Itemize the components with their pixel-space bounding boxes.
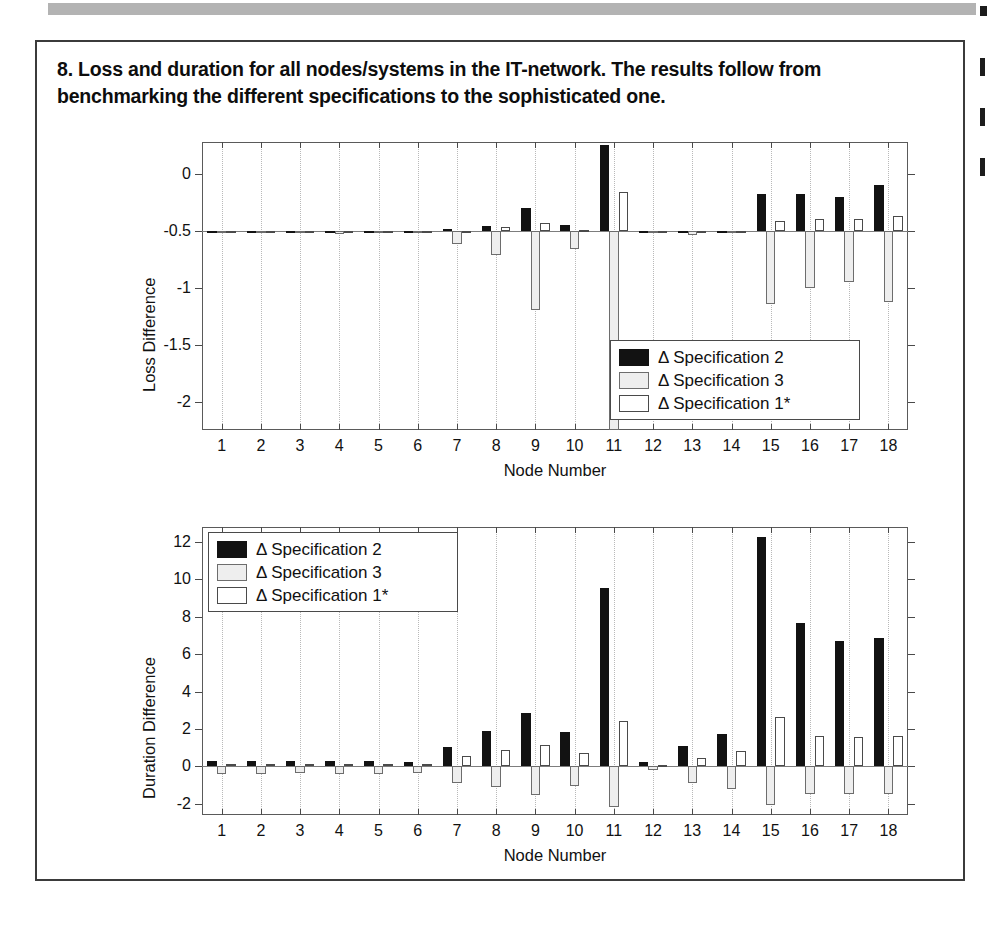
bar xyxy=(383,231,392,233)
y-axis-tick-right xyxy=(908,345,915,346)
bar xyxy=(600,145,609,230)
x-axis-tick xyxy=(222,424,223,430)
bar xyxy=(835,197,844,231)
legend-swatch-s1 xyxy=(619,395,649,412)
x-axis-tick xyxy=(300,424,301,430)
bar xyxy=(884,766,893,794)
bar xyxy=(796,194,805,230)
x-axis-tick xyxy=(222,809,223,815)
bar xyxy=(452,766,461,783)
figure-panel: 8. Loss and duration for all nodes/syste… xyxy=(35,40,965,881)
gridline-vertical xyxy=(457,142,458,430)
page-edge-text-fragments xyxy=(978,0,1000,190)
x-axis-tick xyxy=(300,809,301,815)
y-axis-tick xyxy=(195,288,202,289)
legend-label: Δ Specification 1* xyxy=(256,587,388,604)
x-axis-tick xyxy=(339,424,340,430)
bar xyxy=(501,227,510,230)
bar xyxy=(413,231,422,233)
bar xyxy=(844,766,853,794)
bar xyxy=(835,641,844,766)
y-axis-tick-right xyxy=(908,729,915,730)
x-axis-tick-label: 11 xyxy=(606,822,623,840)
bar xyxy=(217,231,226,233)
loss-legend: Δ Specification 2Δ Specification 3Δ Spec… xyxy=(610,340,860,420)
bar xyxy=(256,766,265,773)
bar xyxy=(570,231,579,249)
bar xyxy=(521,208,530,231)
x-axis-tick-label: 8 xyxy=(492,437,501,455)
y-axis-tick xyxy=(195,654,202,655)
bar xyxy=(247,231,256,233)
y-axis-tick-label: -1 xyxy=(177,279,191,297)
x-axis-tick xyxy=(379,809,380,815)
x-axis-tick-label: 17 xyxy=(840,822,858,840)
x-axis-tick-top xyxy=(496,142,497,148)
y-axis-tick xyxy=(195,729,202,730)
y-axis-tick-label: 12 xyxy=(173,533,191,551)
y-axis-tick xyxy=(195,692,202,693)
gridline-vertical xyxy=(339,142,340,430)
bar xyxy=(757,194,766,230)
bar xyxy=(815,736,824,766)
y-axis-tick xyxy=(195,231,202,232)
gridline-vertical xyxy=(418,142,419,430)
bar xyxy=(404,762,413,767)
bar xyxy=(247,761,256,767)
bar xyxy=(217,766,226,773)
bar xyxy=(531,231,540,311)
y-axis-tick-label: 0 xyxy=(182,165,191,183)
x-axis-tick-top xyxy=(653,527,654,533)
bar xyxy=(678,746,687,767)
bar xyxy=(295,766,304,773)
bar xyxy=(335,766,344,773)
bar xyxy=(325,231,334,233)
x-axis-tick-label: 10 xyxy=(566,822,584,840)
x-axis-tick xyxy=(261,424,262,430)
page-top-rule xyxy=(48,3,976,15)
bar xyxy=(854,219,863,230)
x-axis-tick-top xyxy=(732,142,733,148)
x-axis-tick-label: 5 xyxy=(374,437,383,455)
bar xyxy=(844,231,853,282)
x-axis-tick-label: 14 xyxy=(723,822,741,840)
bar xyxy=(344,231,353,233)
x-axis-tick-top xyxy=(810,527,811,533)
x-axis-tick-top xyxy=(849,142,850,148)
x-axis-tick-top xyxy=(771,142,772,148)
bar xyxy=(422,764,431,766)
bar xyxy=(413,766,422,773)
bar xyxy=(452,231,461,245)
y-axis-tick-right xyxy=(908,804,915,805)
y-axis-tick-label: 10 xyxy=(173,570,191,588)
bar xyxy=(325,761,334,767)
x-axis-tick xyxy=(457,809,458,815)
x-axis-tick xyxy=(575,424,576,430)
y-axis-tick xyxy=(195,766,202,767)
x-axis-tick xyxy=(496,424,497,430)
x-axis-tick-label: 12 xyxy=(644,822,662,840)
legend-item: Δ Specification 2 xyxy=(619,347,850,367)
bar xyxy=(256,231,265,233)
legend-label: Δ Specification 3 xyxy=(256,564,382,581)
bar xyxy=(286,761,295,766)
x-axis-tick-label: 13 xyxy=(683,822,701,840)
x-axis-tick-label: 8 xyxy=(492,822,501,840)
bar xyxy=(207,761,216,767)
x-axis-tick-label: 11 xyxy=(606,437,623,455)
bar xyxy=(462,756,471,766)
y-axis-tick-right xyxy=(908,174,915,175)
bar xyxy=(658,231,667,233)
y-axis-tick-label: 0 xyxy=(182,757,191,775)
x-axis-tick-label: 16 xyxy=(801,437,819,455)
bar xyxy=(805,766,814,794)
y-axis-tick-label: 6 xyxy=(182,645,191,663)
x-axis-tick-label: 4 xyxy=(335,822,344,840)
y-axis-tick-right xyxy=(908,617,915,618)
legend-label: Δ Specification 2 xyxy=(658,349,784,366)
x-axis-tick xyxy=(888,809,889,815)
legend-swatch-s1 xyxy=(217,587,247,604)
x-axis-tick xyxy=(339,809,340,815)
x-axis-tick-top xyxy=(418,142,419,148)
bar xyxy=(266,764,275,766)
